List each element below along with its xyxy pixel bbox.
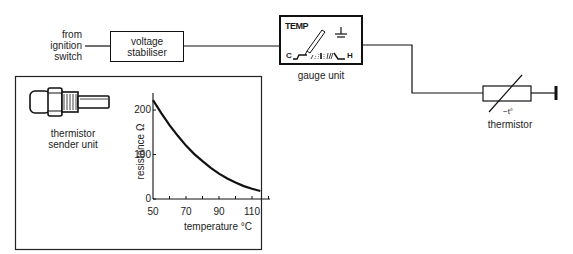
gauge-cold-label: C [286,51,292,60]
wire-gauge-thermistor [363,45,483,93]
thermistor-symbol-icon [483,75,556,112]
stabiliser-label: voltage stabiliser [111,36,183,58]
y-tick-label: 100 [125,149,151,160]
source-label-line: from [38,29,82,40]
source-label: from ignition switch [38,29,82,62]
gauge-scale [293,53,345,59]
source-label-line: ignition [38,40,82,51]
resistance-curve [153,100,260,191]
stabiliser-label-line: stabiliser [111,47,183,58]
gauge-hot-label: H [347,51,353,60]
y-tick-label: 0 [125,193,151,204]
y-tick-label: 200 [125,104,151,115]
x-tick-label: 70 [174,206,198,217]
stabiliser-label-line: voltage [111,36,183,47]
x-tick-label: 90 [207,206,231,217]
gauge-unit-box: TEMP C H [279,15,363,65]
x-axis-label: temperature °C [168,221,268,232]
thermistor-symbol-label: −t° [498,106,518,117]
gauge-needle-icon [305,30,325,55]
sender-caption: thermistor sender unit [38,128,108,150]
x-tick-label: 50 [141,206,165,217]
thermistor-sender-unit-icon [30,88,109,116]
x-tick-label: 110 [240,206,264,217]
sender-caption-line: thermistor [38,128,108,139]
resistance-temperature-chart [153,93,270,199]
earth-icon [335,27,347,37]
thermistor-caption: thermistor [480,119,540,130]
voltage-stabiliser-box: voltage stabiliser [110,31,184,62]
source-label-line: switch [38,51,82,62]
sender-caption-line: sender unit [38,139,108,150]
gauge-caption: gauge unit [285,70,357,81]
